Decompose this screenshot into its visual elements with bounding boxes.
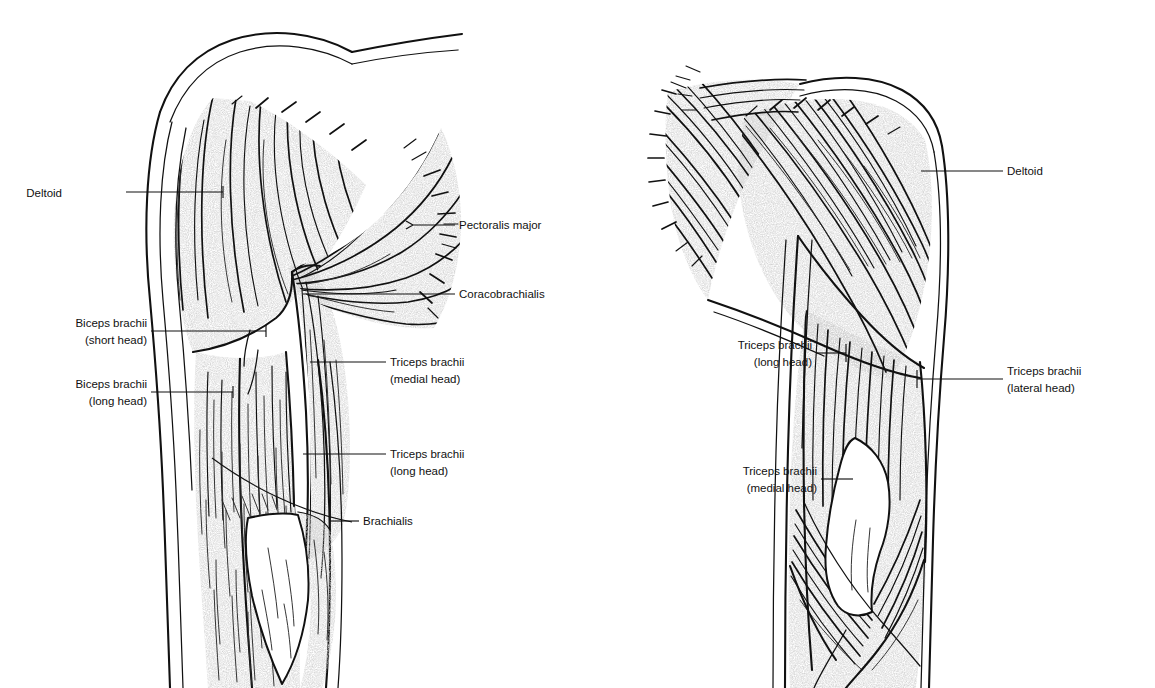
arm-muscles-illustration: Deltoid Biceps brachii (short head) Bice… — [0, 0, 1155, 688]
label-text-biceps-long-head-line2: (long head) — [89, 395, 147, 407]
label-text-deltoid-posterior: Deltoid — [1007, 165, 1043, 177]
label-text-coracobrachialis: Coracobrachialis — [459, 288, 545, 300]
label-text-triceps-long-head-posterior-line2: (long head) — [754, 356, 812, 368]
label-text-brachialis: Brachialis — [363, 515, 413, 527]
label-text-triceps-lateral-head-line2: (lateral head) — [1007, 382, 1075, 394]
label-text-biceps-short-head-line2: (short head) — [85, 334, 147, 346]
label-text-triceps-medial-head-posterior-line1: Triceps brachii — [743, 465, 817, 477]
label-text-biceps-short-head-line1: Biceps brachii — [75, 317, 147, 329]
label-text-triceps-medial-head-posterior-line2: (medial head) — [747, 482, 817, 494]
label-text-triceps-medial-head-line1: Triceps brachii — [390, 356, 464, 368]
label-text-triceps-lateral-head-line1: Triceps brachii — [1007, 365, 1081, 377]
label-text-triceps-medial-head-line2: (medial head) — [390, 373, 460, 385]
label-text-triceps-long-head-posterior-line1: Triceps brachii — [738, 339, 812, 351]
label-text-biceps-long-head-line1: Biceps brachii — [75, 378, 147, 390]
anatomical-figure: Deltoid Biceps brachii (short head) Bice… — [0, 0, 1155, 688]
label-text-pectoralis-major: Pectoralis major — [459, 219, 542, 231]
label-text-deltoid: Deltoid — [26, 187, 62, 199]
canvas-background — [0, 0, 1155, 688]
label-text-triceps-long-head-line2: (long head) — [390, 465, 448, 477]
label-text-triceps-long-head-line1: Triceps brachii — [390, 448, 464, 460]
